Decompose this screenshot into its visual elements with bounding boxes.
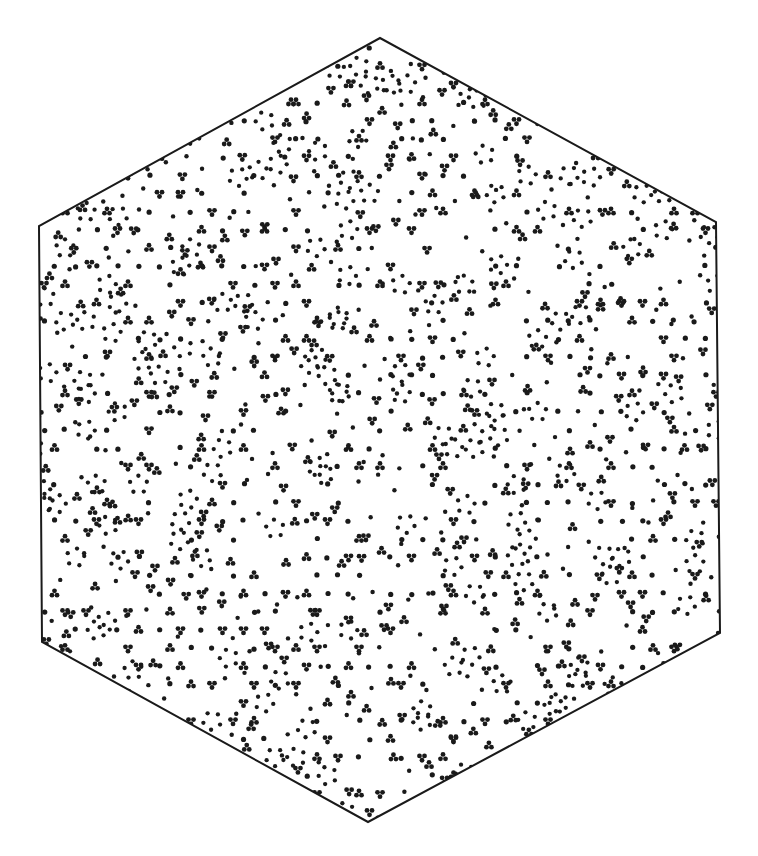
dot-pattern-canvas [0,0,758,856]
hexagon-dot-pattern-figure: Hexagonal region filled with a quasiperi… [0,0,758,856]
